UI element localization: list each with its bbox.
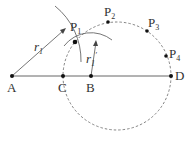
- point-D: [169, 74, 173, 78]
- label-P2: P2: [104, 4, 115, 21]
- arc-r1-prime: [64, 33, 112, 46]
- label-r1: r1: [34, 39, 43, 56]
- label-P3: P3: [148, 15, 159, 32]
- label-r1-prime: r1′: [86, 51, 97, 68]
- label-P4: P4: [169, 46, 180, 63]
- point-C: [61, 74, 65, 78]
- point-A: [10, 74, 14, 78]
- point-B: [89, 74, 93, 78]
- label-A: A: [7, 80, 17, 95]
- label-C: C: [58, 80, 67, 95]
- arrow-head-r1-prime: [93, 40, 98, 46]
- label-B: B: [86, 80, 95, 95]
- geometry-diagram: A C B D P1 P2 P3 P4 r1 r1′: [0, 0, 188, 142]
- label-P1: P1: [70, 19, 81, 36]
- label-D: D: [175, 68, 184, 83]
- point-P1: [73, 40, 78, 45]
- point-P2: [106, 20, 110, 24]
- point-P4: [164, 54, 168, 58]
